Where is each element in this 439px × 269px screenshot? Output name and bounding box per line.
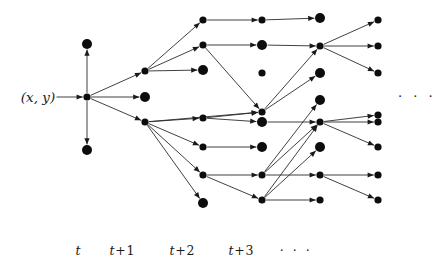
- edge-arrowhead: [133, 94, 139, 99]
- tree-edge: [266, 18, 314, 20]
- edge-arrowhead: [84, 138, 89, 144]
- tree-node: [141, 67, 148, 74]
- edge-arrowhead: [310, 43, 316, 48]
- tree-node: [258, 69, 265, 76]
- tree-node: [374, 69, 381, 76]
- tree-node: [374, 171, 381, 178]
- tree-edge: [265, 151, 316, 197]
- tree-node: [316, 42, 323, 49]
- edge-arrowhead: [252, 172, 258, 177]
- edge-arrowhead: [250, 42, 256, 47]
- edge-arrowhead: [191, 68, 197, 73]
- tree-node: [258, 196, 265, 203]
- tree-edge: [207, 177, 258, 199]
- tree-node: [258, 108, 265, 115]
- tree-edge: [149, 47, 199, 70]
- terminal-node: [140, 92, 150, 102]
- tree-edge: [149, 124, 199, 146]
- edge-arrowhead: [368, 119, 374, 124]
- edge-arrowhead: [252, 17, 258, 22]
- tree-edge: [324, 116, 374, 122]
- terminal-node: [257, 117, 267, 127]
- tree-node: [374, 16, 381, 23]
- tree-edge: [149, 70, 197, 71]
- root-state-label: (x, y): [21, 89, 55, 105]
- tree-edge: [324, 177, 374, 199]
- right-ellipsis: · · ·: [398, 89, 436, 104]
- tree-node: [374, 118, 381, 125]
- tree-edge: [148, 23, 200, 69]
- tree-node: [374, 111, 381, 118]
- edge-arrowhead: [194, 192, 200, 199]
- terminal-node: [198, 198, 208, 208]
- edge-arrowhead: [367, 114, 373, 119]
- tree-edge: [206, 48, 260, 109]
- tree-edge: [148, 125, 200, 172]
- tree-node: [258, 171, 265, 178]
- tree-edge: [324, 22, 374, 45]
- tree-node: [316, 196, 323, 203]
- edge-arrowhead: [192, 116, 198, 121]
- axis-label-ellipsis: · · ·: [280, 243, 312, 258]
- terminal-node: [315, 142, 325, 152]
- tree-graph-canvas: [0, 0, 439, 269]
- edge-arrowhead: [250, 144, 256, 149]
- terminal-node: [257, 40, 267, 50]
- tree-edge: [267, 45, 315, 46]
- axis-label-t-plus-3: t+3: [228, 243, 253, 258]
- tree-node: [199, 16, 206, 23]
- tree-node: [199, 41, 206, 48]
- tree-edge: [324, 48, 374, 71]
- edge-arrowhead: [368, 172, 374, 177]
- tree-edge: [91, 73, 141, 96]
- tree-edge: [207, 112, 258, 117]
- edge-arrowhead: [251, 110, 257, 115]
- tree-edge: [324, 124, 374, 146]
- terminal-node: [82, 145, 92, 155]
- edge-arrowhead: [310, 119, 316, 124]
- tree-diagram-figure: (x, y) · · · tt+1t+2t+3· · ·: [0, 0, 439, 269]
- terminal-node: [82, 39, 92, 49]
- nodes-layer: [82, 13, 382, 208]
- terminal-node: [198, 65, 208, 75]
- tree-edge: [147, 125, 199, 198]
- edges-layer: [57, 18, 375, 200]
- tree-node: [374, 143, 381, 150]
- tree-node: [83, 93, 90, 100]
- tree-node: [374, 196, 381, 203]
- tree-node: [141, 118, 148, 125]
- tree-node: [199, 143, 206, 150]
- edge-arrowhead: [310, 197, 316, 202]
- edge-arrowhead: [250, 119, 256, 124]
- tree-edge: [265, 125, 317, 172]
- edge-arrowhead: [308, 16, 314, 21]
- tree-node: [316, 171, 323, 178]
- edge-arrowhead: [368, 43, 374, 48]
- edge-arrowhead: [77, 94, 83, 99]
- tree-edge: [91, 99, 141, 121]
- axis-label-t-plus-2: t+2: [169, 243, 194, 258]
- terminal-node: [257, 142, 267, 152]
- edge-arrowhead: [84, 50, 89, 56]
- tree-node: [199, 171, 206, 178]
- tree-edge: [265, 76, 315, 110]
- axis-label-t: t: [75, 243, 80, 258]
- axis-label-t-plus-1: t+1: [109, 243, 134, 258]
- tree-edge: [265, 49, 318, 109]
- terminal-node: [315, 95, 325, 105]
- edge-arrowhead: [309, 76, 316, 82]
- terminal-node: [315, 13, 325, 23]
- tree-node: [258, 16, 265, 23]
- edge-arrowhead: [311, 104, 317, 110]
- tree-node: [316, 118, 323, 125]
- edge-arrowhead: [310, 172, 316, 177]
- tree-edge: [207, 118, 256, 121]
- tree-node: [374, 42, 381, 49]
- terminal-node: [315, 68, 325, 78]
- tree-node: [199, 114, 206, 121]
